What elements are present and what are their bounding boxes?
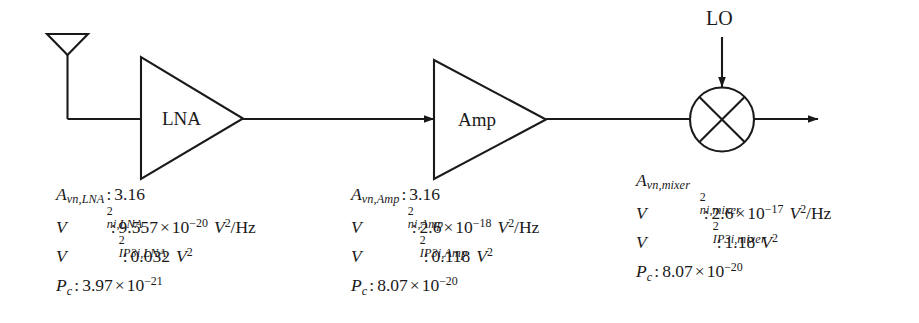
amp-pc-subscript: c — [362, 284, 368, 298]
lna-ip3-unit-superscript: 2 — [187, 245, 193, 259]
lna-noise-subscript: ni,LNA — [107, 218, 143, 230]
mixer-pc-symbol: P — [636, 261, 647, 281]
mixer-parameter-list: Avn,mixer V2ni,mixer:2.6×10−17V2/Hz V2IP… — [636, 166, 831, 282]
mixer-pc-subscript: c — [647, 270, 653, 284]
lna-block-label: LNA — [162, 108, 201, 130]
mixer-noise-unit-symbol: V — [789, 203, 800, 223]
lna-noise-exponent: −20 — [189, 216, 208, 230]
lna-noise-superscript: 2 — [107, 206, 113, 218]
mixer-noise-line: V2ni,mixer:2.6×10−17V2/Hz — [636, 195, 831, 224]
multiplication-sign: × — [115, 275, 125, 295]
mixer-gain-symbol: A — [636, 170, 647, 190]
mixer-noise-base: 10 — [747, 203, 765, 223]
rf-receiver-block-diagram: LNA Amp LO Avn,LNA:3.16 V2ni,LNA:9.557×1… — [0, 0, 919, 323]
amp-noise-exponent: −18 — [473, 216, 492, 230]
lna-ip3-line: V2IP3i,LNA:0.032V2 — [56, 238, 256, 267]
amp-noise-base: 10 — [455, 217, 473, 237]
mixer-ip3-symbol: V — [636, 232, 647, 252]
amp-block-label: Amp — [458, 109, 496, 131]
mixer-gain-line: Avn,mixer — [636, 166, 831, 195]
lna-ip3-symbol: V — [56, 246, 67, 266]
lna-ip3-unit-symbol: V — [176, 246, 187, 266]
mixer-pc-mantissa: 8.07 — [662, 261, 693, 281]
amp-parameter-list: Avn,Amp:3.16 V2ni,Amp:2.6×10−18V2/Hz V2I… — [351, 180, 539, 296]
mixer-pc-base: 10 — [707, 261, 725, 281]
amp-noise-symbol-cluster: V2ni,Amp — [351, 213, 408, 242]
mixer-pc-line: Pc:8.07×10−20 — [636, 253, 831, 282]
mixer-pc-exponent: −20 — [724, 260, 743, 274]
colon-separator: : — [106, 184, 111, 204]
amp-ip3-unit-symbol: V — [476, 246, 487, 266]
lna-pc-line: Pc:3.97×10−21 — [56, 267, 256, 296]
mixer-ip3-subscript: IP3i,mixer — [713, 233, 766, 245]
amp-gain-line: Avn,Amp:3.16 — [351, 180, 539, 209]
mixer-ip3-unit-superscript: 2 — [772, 231, 778, 245]
amp-pc-line: Pc:8.07×10−20 — [351, 267, 539, 296]
amp-ip3-superscript: 2 — [420, 235, 426, 247]
amp-gain-subscript: vn,Amp — [362, 192, 400, 206]
mixer-noise-exponent: −17 — [765, 202, 784, 216]
lna-gain-line: Avn,LNA:3.16 — [56, 180, 256, 209]
lna-noise-unit-rest: /Hz — [231, 217, 256, 237]
lna-noise-unit-symbol: V — [214, 217, 225, 237]
lna-pc-subscript: c — [67, 284, 73, 298]
amp-ip3-unit-superscript: 2 — [487, 245, 493, 259]
multiplication-sign: × — [443, 217, 453, 237]
mixer-ip3-superscript: 2 — [713, 221, 719, 233]
lna-pc-base: 10 — [127, 275, 145, 295]
amp-noise-unit-rest: /Hz — [514, 217, 539, 237]
mixer-ip3-line: V2IP3i,mixer:1.18V2 — [636, 224, 831, 253]
multiplication-sign: × — [410, 275, 420, 295]
multiplication-sign: × — [695, 261, 705, 281]
amp-noise-superscript: 2 — [408, 206, 414, 218]
lna-noise-symbol: V — [56, 217, 67, 237]
amp-noise-symbol: V — [351, 217, 362, 237]
amp-pc-exponent: −20 — [439, 274, 458, 288]
lna-noise-line: V2ni,LNA:9.557×10−20V2/Hz — [56, 209, 256, 238]
amp-pc-mantissa: 8.07 — [377, 275, 408, 295]
mixer-noise-symbol: V — [636, 203, 647, 223]
amp-ip3-symbol-cluster: V2IP3i,Amp — [351, 242, 420, 271]
lna-parameter-list: Avn,LNA:3.16 V2ni,LNA:9.557×10−20V2/Hz V… — [56, 180, 256, 296]
lna-ip3-subscript: IP3i,LNA — [119, 247, 166, 259]
mixer-noise-unit-rest: /Hz — [806, 203, 831, 223]
mixer-ip3-symbol-cluster: V2IP3i,mixer — [636, 228, 713, 257]
multiplication-sign: × — [160, 217, 170, 237]
amp-gain-value: 3.16 — [409, 184, 440, 204]
amp-ip3-line: V2IP3i,Amp:0.118V2 — [351, 238, 539, 267]
mixer-noise-superscript: 2 — [700, 192, 706, 204]
amp-noise-unit-symbol: V — [497, 217, 508, 237]
lna-pc-mantissa: 3.97 — [82, 275, 113, 295]
lna-pc-exponent: −21 — [144, 274, 163, 288]
lna-noise-base: 10 — [172, 217, 190, 237]
colon-separator: : — [74, 275, 79, 295]
lna-gain-subscript: vn,LNA — [67, 192, 105, 206]
amp-noise-line: V2ni,Amp:2.6×10−18V2/Hz — [351, 209, 539, 238]
amp-pc-symbol: P — [351, 275, 362, 295]
lna-gain-symbol: A — [56, 184, 67, 204]
colon-separator: : — [401, 184, 406, 204]
colon-separator: : — [654, 261, 659, 281]
lo-label: LO — [706, 7, 733, 30]
amp-noise-subscript: ni,Amp — [408, 218, 444, 230]
amp-ip3-symbol: V — [351, 246, 362, 266]
lna-gain-value: 3.16 — [114, 184, 145, 204]
lna-noise-symbol-cluster: V2ni,LNA — [56, 213, 107, 242]
mixer-noise-subscript: ni,mixer — [700, 204, 741, 216]
amp-gain-symbol: A — [351, 184, 362, 204]
mixer-gain-subscript: vn,mixer — [647, 178, 690, 192]
mixer-symbol — [690, 88, 754, 152]
lna-pc-symbol: P — [56, 275, 67, 295]
antenna-icon — [47, 34, 88, 119]
amp-ip3-subscript: IP3i,Amp — [420, 247, 467, 259]
amp-pc-base: 10 — [422, 275, 440, 295]
lna-ip3-superscript: 2 — [119, 235, 125, 247]
mixer-noise-symbol-cluster: V2ni,mixer — [636, 199, 700, 228]
colon-separator: : — [369, 275, 374, 295]
lna-ip3-symbol-cluster: V2IP3i,LNA — [56, 242, 119, 271]
